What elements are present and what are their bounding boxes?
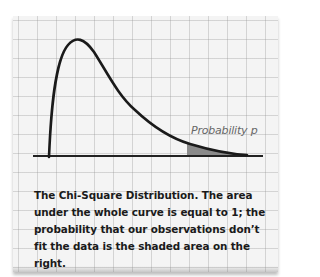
distribution-curve <box>49 40 247 157</box>
probability-p-label: Probability p <box>191 124 257 137</box>
figure-caption: The Chi-Square Distribution. The area un… <box>34 187 274 272</box>
